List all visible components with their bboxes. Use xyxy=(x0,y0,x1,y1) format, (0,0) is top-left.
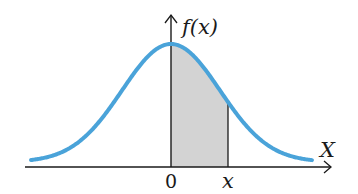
origin-label: 0 xyxy=(165,170,177,192)
y-axis-label: f(x) xyxy=(180,15,218,39)
normal-distribution-figure: f(x) X 0 x xyxy=(0,0,358,194)
x-axis-label: X xyxy=(318,138,336,162)
x-marker-label: x xyxy=(222,169,234,193)
